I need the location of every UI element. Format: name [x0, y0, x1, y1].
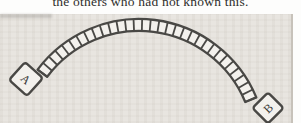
track-band — [38, 19, 257, 102]
track-tile-a: A — [9, 62, 43, 96]
curved-track-illustration: AB — [0, 14, 291, 123]
figure-panel: AB — [0, 14, 293, 123]
page-text-cropped: the others who had not known this. — [0, 0, 301, 13]
scan-smudge — [0, 14, 52, 18]
track-rung — [134, 19, 135, 31]
caption-text: the others who had not known this. — [0, 0, 301, 9]
track-rung — [150, 20, 151, 32]
